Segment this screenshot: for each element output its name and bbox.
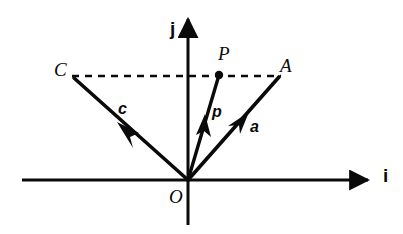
point-label-C: C (54, 60, 67, 79)
axis-label-i: i (383, 166, 388, 185)
vector-label-a: a (250, 119, 259, 135)
point-label-P: P (218, 44, 230, 63)
vector-diagram-figure: C A P O c p a i j (0, 0, 403, 234)
axis-label-j: j (170, 19, 175, 38)
vector-label-p: p (212, 104, 222, 120)
vector-diagram-canvas (0, 0, 403, 234)
vector-label-c: c (118, 101, 127, 117)
point-P-dot (215, 71, 223, 79)
vector-p-arrowhead (196, 114, 211, 137)
point-label-O: O (169, 187, 183, 206)
point-label-A: A (280, 56, 292, 75)
